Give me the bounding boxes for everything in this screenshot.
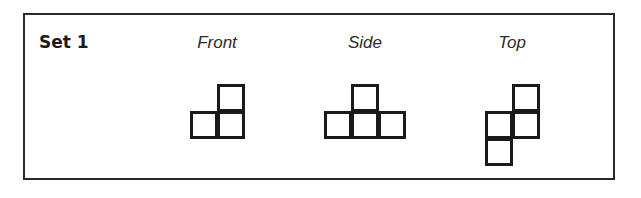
top-view-cell [485,138,513,166]
top-view-cell [512,84,540,112]
side-view-label: Side [315,33,415,53]
top-view-label: Top [462,33,562,53]
side-view-cell [351,111,379,139]
set-title: Set 1 [39,32,89,52]
front-view-label: Front [167,33,267,53]
side-view-cell [378,111,406,139]
side-view-cell [351,84,379,112]
top-view-cell [512,111,540,139]
top-view-cell [485,111,513,139]
front-view-cell [217,111,245,139]
side-view-cell [324,111,352,139]
front-view-cell [190,111,218,139]
front-view-cell [217,84,245,112]
